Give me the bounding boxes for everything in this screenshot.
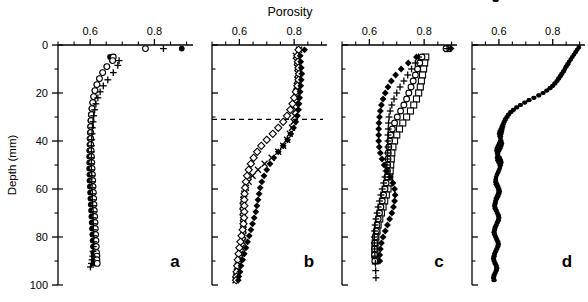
marker-plus bbox=[404, 72, 411, 79]
x-tick-label-0.6-a: 0.6 bbox=[82, 25, 97, 37]
marker-filled-diamond bbox=[290, 124, 297, 131]
y-tick-label-80: 80 bbox=[36, 231, 48, 243]
marker-open-circle bbox=[94, 261, 100, 267]
marker-plus bbox=[388, 102, 395, 109]
marker-filled-circle bbox=[179, 46, 185, 52]
marker-plus bbox=[114, 62, 121, 69]
y-axis-label: Depth (mm) bbox=[6, 134, 18, 195]
marker-plus bbox=[110, 69, 117, 76]
marker-open-square bbox=[421, 66, 427, 72]
marker-plus bbox=[100, 82, 107, 89]
marker-filled-diamond bbox=[377, 150, 384, 157]
marker-open-circle bbox=[406, 90, 412, 96]
marker-open-square bbox=[394, 132, 400, 138]
marker-cross-x bbox=[255, 167, 261, 173]
marker-open-circle bbox=[404, 96, 410, 102]
marker-open-square bbox=[400, 120, 406, 126]
marker-filled-diamond bbox=[392, 72, 399, 79]
marker-open-circle bbox=[412, 72, 418, 78]
marker-filled-diamond bbox=[376, 144, 383, 151]
marker-filled-circle-small bbox=[526, 98, 530, 102]
marker-plus bbox=[160, 45, 167, 52]
y-tick-label-20: 20 bbox=[36, 87, 48, 99]
figure-canvas: Porosity020406080100Depth (mm)0.60.8a0.6… bbox=[0, 0, 588, 302]
marker-open-circle bbox=[394, 114, 400, 120]
marker-plus bbox=[393, 90, 400, 97]
marker-filled-diamond bbox=[296, 100, 303, 107]
marker-open-square bbox=[420, 72, 426, 78]
marker-filled-diamond bbox=[296, 94, 303, 101]
marker-filled-diamond bbox=[294, 112, 301, 119]
marker-filled-diamond bbox=[405, 60, 412, 67]
y-tick-label-40: 40 bbox=[36, 135, 48, 147]
marker-filled-diamond bbox=[376, 114, 383, 121]
marker-filled-circle-small bbox=[531, 96, 535, 100]
marker-filled-diamond bbox=[239, 256, 246, 263]
marker-open-square bbox=[413, 96, 419, 102]
marker-open-circle bbox=[415, 66, 421, 72]
marker-filled-circle-small bbox=[536, 93, 540, 97]
x-tick-label-0.6-c: 0.6 bbox=[362, 25, 377, 37]
marker-open-circle bbox=[90, 178, 96, 184]
marker-open-circle bbox=[90, 184, 96, 190]
marker-filled-circle-small bbox=[540, 91, 544, 95]
marker-plus bbox=[397, 84, 404, 91]
marker-open-diamond bbox=[237, 238, 244, 245]
marker-open-circle bbox=[90, 190, 96, 196]
marker-filled-diamond bbox=[379, 156, 386, 163]
series-d-filled-circle-dense bbox=[492, 0, 581, 282]
marker-filled-diamond bbox=[380, 234, 387, 241]
marker-filled-diamond bbox=[287, 130, 294, 137]
marker-filled-circle-small bbox=[518, 103, 522, 107]
marker-filled-diamond bbox=[251, 214, 258, 221]
marker-open-diamond bbox=[269, 130, 276, 137]
marker-filled-diamond bbox=[385, 84, 392, 91]
marker-filled-diamond bbox=[263, 166, 270, 173]
marker-filled-diamond bbox=[388, 78, 395, 85]
marker-filled-diamond bbox=[257, 184, 264, 191]
marker-filled-diamond bbox=[254, 202, 261, 209]
marker-plus bbox=[400, 78, 407, 85]
marker-plus bbox=[408, 66, 415, 73]
panel-label-b: b bbox=[304, 252, 314, 271]
marker-filled-diamond bbox=[255, 196, 262, 203]
marker-open-circle bbox=[392, 120, 398, 126]
marker-open-circle bbox=[110, 58, 116, 64]
marker-plus bbox=[387, 108, 394, 115]
marker-open-circle bbox=[97, 76, 103, 82]
marker-filled-diamond bbox=[375, 132, 382, 139]
marker-filled-diamond bbox=[398, 66, 405, 73]
y-tick-label-0: 0 bbox=[42, 39, 48, 51]
marker-filled-diamond bbox=[295, 106, 302, 113]
marker-filled-diamond bbox=[249, 220, 256, 227]
panel-label-c: c bbox=[434, 252, 443, 271]
marker-filled-diamond bbox=[375, 126, 382, 133]
porosity-depth-figure: Porosity020406080100Depth (mm)0.60.8a0.6… bbox=[0, 0, 588, 302]
marker-open-circle bbox=[408, 84, 414, 90]
marker-filled-diamond bbox=[382, 90, 389, 97]
marker-plus bbox=[373, 274, 380, 281]
marker-plus bbox=[391, 96, 398, 103]
y-tick-label-100: 100 bbox=[30, 279, 48, 291]
chart-title: Porosity bbox=[267, 5, 313, 19]
x-tick-label-0.8-a: 0.8 bbox=[147, 25, 162, 37]
marker-open-diamond bbox=[254, 148, 261, 155]
marker-open-circle bbox=[104, 64, 110, 70]
x-tick-label-0.6-d: 0.6 bbox=[491, 25, 506, 37]
marker-plus bbox=[386, 114, 393, 121]
marker-open-square bbox=[417, 84, 423, 90]
marker-filled-diamond bbox=[256, 190, 263, 197]
marker-filled-circle-small bbox=[491, 278, 495, 282]
marker-filled-circle-small bbox=[544, 89, 548, 93]
x-tick-label-0.6-b: 0.6 bbox=[232, 25, 247, 37]
marker-open-diamond bbox=[263, 136, 270, 143]
marker-open-diamond bbox=[275, 124, 282, 131]
marker-filled-diamond bbox=[386, 216, 393, 223]
marker-filled-diamond bbox=[261, 172, 268, 179]
marker-open-square bbox=[397, 126, 403, 132]
marker-open-circle bbox=[410, 78, 416, 84]
marker-filled-diamond bbox=[384, 222, 391, 229]
marker-filled-diamond bbox=[392, 192, 399, 199]
marker-filled-diamond bbox=[377, 108, 384, 115]
marker-open-circle bbox=[91, 94, 97, 100]
